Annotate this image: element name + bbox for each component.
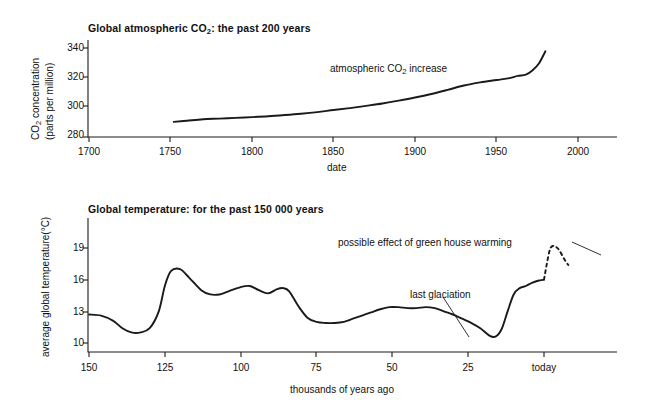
chart-temperature-leader-last-glaciation [443, 297, 469, 337]
chart-temperature-leader-greenhouse [572, 242, 601, 255]
chart-temperature-forecast-line [544, 246, 568, 280]
chart-temperature-plot-svg [0, 185, 660, 411]
chart-global-temperature: Global temperature: for the past 150 000… [0, 185, 660, 411]
chart-co2-concentration: Global atmospheric CO2: the past 200 yea… [0, 0, 660, 185]
chart-temperature-axes [88, 218, 617, 352]
chart-co2-axes [88, 40, 617, 137]
chart-co2-data-line [174, 51, 546, 122]
chart-co2-plot-svg [0, 0, 660, 185]
figure-root: Global atmospheric CO2: the past 200 yea… [0, 0, 660, 411]
chart-temperature-data-line [89, 269, 544, 338]
